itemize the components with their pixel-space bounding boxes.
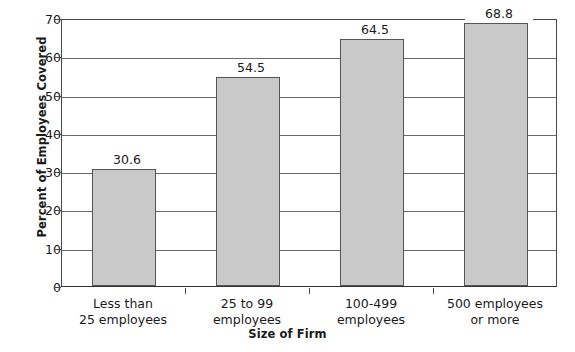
bar [216,77,280,286]
x-tick-mark [185,288,186,294]
category-label: Less than25 employees [61,296,185,327]
bar-value-label: 68.8 [465,6,533,21]
x-axis-title: Size of Firm [0,327,575,341]
category-label: 100-499employees [309,296,433,327]
x-tick-mark [433,288,434,294]
category-label: 500 employeesor more [433,296,557,327]
x-tick-mark [309,288,310,294]
bar [92,169,156,286]
bar [464,23,528,286]
bar-chart: Percent of Employees Covered 70605040302… [0,0,575,352]
bar-value-label: 30.6 [93,152,161,167]
category-label: 25 to 99employees [185,296,309,327]
y-axis-tick-labels: 706050403020100 [0,19,61,287]
bar-value-label: 54.5 [217,60,285,75]
x-axis-tick-marks [61,288,557,295]
bar [340,39,404,286]
bar-value-label: 64.5 [341,22,409,37]
